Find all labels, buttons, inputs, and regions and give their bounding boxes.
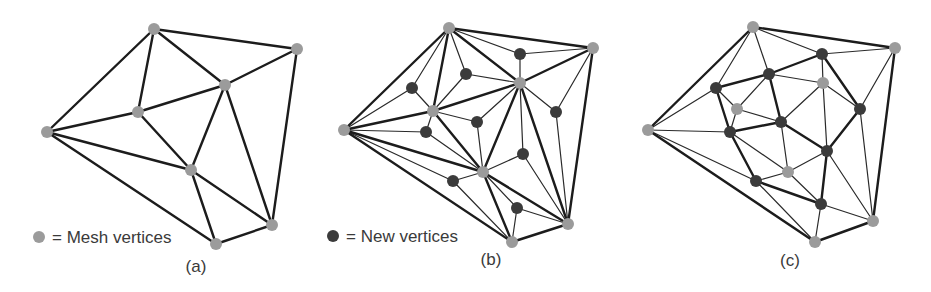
- new-vertex: [460, 68, 472, 80]
- mesh-vertex: [185, 164, 197, 176]
- new-vertex: [406, 82, 418, 94]
- mesh-vertex: [427, 105, 439, 117]
- mesh-edge: [815, 221, 873, 242]
- new-vertex: [447, 175, 459, 187]
- connector-edge: [823, 83, 827, 151]
- subdivision-diagram: = Mesh vertices = New vertices (a) (b) (…: [0, 0, 931, 292]
- new-mesh-edge: [756, 181, 821, 204]
- connector-edge: [781, 122, 788, 172]
- mesh-vertex: [219, 79, 231, 91]
- mesh-vertex: [506, 236, 518, 248]
- mesh-vertex: [562, 218, 574, 230]
- panel-c-retriangulated-mesh: [642, 21, 901, 248]
- mesh-vertex: [747, 21, 759, 33]
- connector-edge: [769, 74, 823, 83]
- panel-a-original-mesh: [41, 23, 303, 250]
- mesh-edge: [648, 130, 815, 242]
- caption-a: (a): [186, 257, 207, 276]
- new-mesh-edge: [769, 74, 781, 122]
- new-vertex: [815, 198, 827, 210]
- connector-edge: [737, 109, 781, 122]
- new-vertex: [763, 68, 775, 80]
- connector-edge: [648, 130, 756, 181]
- mesh-edge: [47, 112, 138, 132]
- mesh-edge: [138, 112, 191, 170]
- mesh-vertex: [782, 166, 794, 178]
- connector-edge: [860, 48, 895, 109]
- mesh-vertex-legend-icon: [33, 231, 45, 243]
- mesh-vertex: [148, 23, 160, 35]
- legend-new-vertices: = New vertices: [327, 227, 458, 246]
- new-vertex: [514, 48, 526, 60]
- mesh-vertex: [338, 124, 350, 136]
- new-vertex: [420, 126, 432, 138]
- new-vertex: [816, 48, 828, 60]
- new-vertex: [471, 116, 483, 128]
- mesh-edge: [344, 130, 483, 172]
- mesh-edge: [873, 48, 895, 221]
- mesh-edge: [216, 225, 272, 244]
- connector-edge: [453, 181, 512, 242]
- new-mesh-edge: [730, 122, 781, 132]
- new-mesh-edge: [716, 74, 769, 88]
- mesh-vertex: [817, 77, 829, 89]
- mesh-edge: [191, 170, 272, 225]
- mesh-edge: [568, 48, 593, 224]
- new-vertex: [854, 103, 866, 115]
- new-vertex: [710, 82, 722, 94]
- mesh-edge: [344, 130, 512, 242]
- connector-edge: [517, 208, 568, 224]
- new-vertex: [821, 145, 833, 157]
- connector-edge: [822, 48, 895, 54]
- connector-edge: [781, 83, 823, 122]
- new-vertex: [511, 202, 523, 214]
- mesh-vertex: [889, 42, 901, 54]
- mesh-vertex: [731, 103, 743, 115]
- mesh-vertex: [41, 126, 53, 138]
- connector-edge: [344, 130, 453, 181]
- caption-c: (c): [780, 251, 800, 270]
- mesh-edge: [512, 224, 568, 242]
- mesh-edge: [483, 83, 520, 172]
- new-vertex: [550, 106, 562, 118]
- mesh-edge: [344, 111, 433, 130]
- mesh-edge: [225, 85, 272, 225]
- mesh-vertex: [809, 236, 821, 248]
- new-vertex: [724, 126, 736, 138]
- legend-mesh-vertices: = Mesh vertices: [33, 228, 172, 247]
- legend-mesh-label: = Mesh vertices: [52, 228, 172, 247]
- connector-edge: [648, 130, 730, 132]
- mesh-edge: [138, 85, 225, 112]
- caption-b: (b): [481, 250, 502, 269]
- connector-edge: [788, 151, 827, 172]
- mesh-edge: [191, 170, 216, 244]
- mesh-vertex: [443, 22, 455, 34]
- mesh-edge: [272, 49, 297, 225]
- connector-edge: [648, 88, 716, 130]
- mesh-vertex: [642, 124, 654, 136]
- mesh-vertex: [266, 219, 278, 231]
- new-mesh-edge: [827, 109, 860, 151]
- new-vertex-legend-icon: [327, 230, 339, 242]
- connector-edge: [823, 83, 860, 109]
- new-mesh-edge: [821, 151, 827, 204]
- connector-edge: [730, 132, 788, 172]
- new-mesh-edge: [781, 122, 827, 151]
- connector-edge: [753, 27, 769, 74]
- mesh-vertex: [514, 77, 526, 89]
- mesh-vertex: [132, 106, 144, 118]
- mesh-vertex: [477, 166, 489, 178]
- mesh-edge: [753, 27, 895, 48]
- new-vertex: [775, 116, 787, 128]
- mesh-edge: [225, 49, 297, 85]
- new-vertex: [517, 148, 529, 160]
- mesh-vertex: [867, 215, 879, 227]
- mesh-vertex: [587, 42, 599, 54]
- panel-b-new-vertices: [338, 22, 599, 248]
- mesh-edge: [47, 132, 191, 170]
- legend-new-label: = New vertices: [346, 227, 458, 246]
- new-mesh-edge: [730, 132, 756, 181]
- mesh-vertex: [210, 238, 222, 250]
- connector-edge: [344, 130, 426, 132]
- mesh-vertex: [291, 43, 303, 55]
